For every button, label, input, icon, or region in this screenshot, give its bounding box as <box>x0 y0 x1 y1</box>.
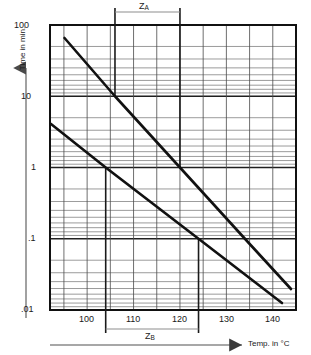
y-tick-label-1: 1 <box>31 162 36 172</box>
y-tick-label-0.1: .1 <box>28 233 36 243</box>
x-tick-label-110: 110 <box>126 314 140 324</box>
y-tick-label-10: 10 <box>21 91 31 101</box>
za-label: ZA <box>139 1 149 11</box>
x-tick-label-100: 100 <box>79 314 94 324</box>
x-tick-label-120: 120 <box>172 314 187 324</box>
y-tick-label-100: 100 <box>14 20 29 30</box>
x-tick-label-130: 130 <box>219 314 234 324</box>
zb-label: ZB <box>145 331 155 341</box>
x-axis-title: Temp. in °C <box>248 339 289 348</box>
chart-svg <box>0 0 311 355</box>
zb-label-sub: B <box>151 334 155 341</box>
x-tick-label-140: 140 <box>265 314 280 324</box>
za-label-sub: A <box>145 4 149 11</box>
y-tick-label-0.01: .01 <box>21 304 34 314</box>
